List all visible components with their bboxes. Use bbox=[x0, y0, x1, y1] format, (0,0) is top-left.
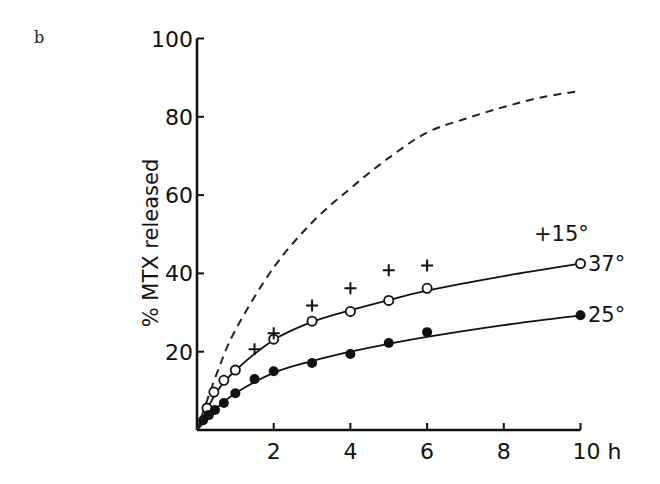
marker-plus bbox=[306, 300, 318, 312]
marker-plus bbox=[421, 260, 433, 272]
x-tick-label: 2 bbox=[267, 439, 281, 464]
y-tick-label: 100 bbox=[151, 27, 193, 52]
series-label-37: 37° bbox=[588, 252, 625, 276]
y-tick-label: 20 bbox=[165, 340, 193, 365]
markers bbox=[198, 259, 585, 425]
marker-open-circle bbox=[384, 296, 393, 305]
y-tick-label: 80 bbox=[165, 105, 193, 130]
marker-filled-circle bbox=[345, 349, 355, 359]
marker-filled-circle bbox=[250, 374, 260, 384]
x-tick-label: 4 bbox=[343, 439, 357, 464]
y-tick-label: 60 bbox=[165, 183, 193, 208]
marker-plus bbox=[249, 343, 261, 355]
marker-filled-circle bbox=[230, 388, 240, 398]
marker-filled-circle bbox=[307, 358, 317, 368]
marker-open-circle bbox=[423, 284, 432, 293]
x-tick-label: 10 h bbox=[573, 439, 622, 464]
marker-open-circle bbox=[231, 366, 240, 375]
x-tick-label: 8 bbox=[497, 439, 511, 464]
marker-plus bbox=[383, 264, 395, 276]
marker-filled-circle bbox=[576, 310, 586, 320]
y-tick-label: 40 bbox=[165, 261, 193, 286]
series-label-15: +15° bbox=[534, 222, 589, 246]
x-tick-label: 6 bbox=[420, 439, 434, 464]
marker-open-circle bbox=[219, 376, 228, 385]
marker-filled-circle bbox=[422, 327, 432, 337]
release-chart: 20406080100246810 h % MTX released+15°37… bbox=[0, 0, 660, 484]
marker-filled-circle bbox=[269, 366, 279, 376]
marker-open-circle bbox=[576, 259, 585, 268]
curve-25 bbox=[197, 315, 581, 430]
marker-filled-circle bbox=[210, 405, 220, 415]
marker-open-circle bbox=[209, 387, 218, 396]
y-axis-label: % MTX released bbox=[139, 159, 163, 328]
marker-open-circle bbox=[346, 307, 355, 316]
series-label-25: 25° bbox=[588, 303, 625, 327]
marker-open-circle bbox=[307, 317, 316, 326]
marker-filled-circle bbox=[219, 398, 229, 408]
marker-plus bbox=[344, 282, 356, 294]
marker-filled-circle bbox=[384, 338, 394, 348]
